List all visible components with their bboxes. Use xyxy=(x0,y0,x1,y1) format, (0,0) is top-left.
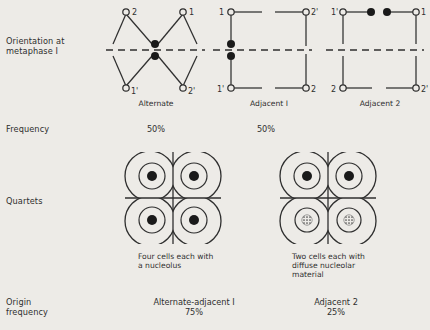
meiosis-orientation-figure: Orientation at metaphase I Frequency Qua… xyxy=(0,0,430,330)
caption-quartet-left: Four cells each with a nucleolus xyxy=(138,252,238,270)
origin-frequency-label-1: Alternate-adjacent I xyxy=(118,297,270,307)
nucleolus-solid xyxy=(344,171,354,181)
quartet-right xyxy=(0,0,430,330)
origin-frequency-value-1: 75% xyxy=(118,307,270,317)
caption-quartet-right: Two cells each with diffuse nucleolar ma… xyxy=(292,252,392,280)
nucleolus-diffuse xyxy=(344,215,354,225)
nucleolus-solid xyxy=(302,171,312,181)
origin-frequency-label-2: Adjacent 2 xyxy=(281,297,391,307)
nucleolus-diffuse xyxy=(302,215,312,225)
origin-frequency-value-2: 25% xyxy=(281,307,391,317)
